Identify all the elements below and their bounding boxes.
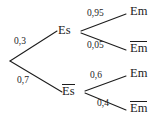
probability-tree-diagram: Es Es Em Em Em Em 0,3 0,7 0,95 0,05 0,6 … [0,0,162,121]
prob-em-2: 0,6 [90,71,102,81]
leaf-em-bar-1-text: Em [130,41,147,55]
node-es: Es [58,24,71,37]
leaf-em-1-text: Em [130,4,147,18]
prob-es-bar: 0,7 [17,76,29,86]
leaf-em-bar-2-text: Em [130,101,147,115]
leaf-em-bar-1: Em [130,41,147,55]
prob-em-bar-1: 0,05 [87,41,104,51]
node-es-text: Es [58,23,71,37]
leaf-em-1: Em [130,5,147,18]
prob-em-1: 0,95 [87,9,104,19]
prob-em-bar-2: 0,4 [97,99,109,109]
prob-es: 0,3 [14,37,26,47]
leaf-em-bar-2: Em [130,101,147,115]
leaf-em-2: Em [130,67,147,80]
node-es-bar-text: Es [62,84,75,98]
node-es-bar: Es [62,84,75,98]
leaf-em-2-text: Em [130,66,147,80]
